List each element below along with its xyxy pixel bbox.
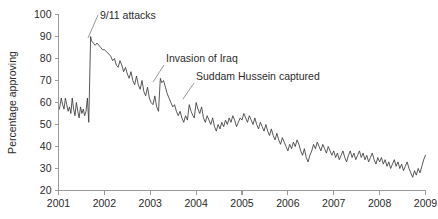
y-tick-label: 90 bbox=[40, 30, 52, 42]
y-axis-title: Percentage approving bbox=[6, 51, 18, 154]
x-tick-label: 2004 bbox=[184, 197, 208, 209]
annotation-label-sept-eleven: 9/11 attacks bbox=[100, 9, 156, 21]
x-tick-label: 2002 bbox=[93, 197, 117, 209]
y-axis-title-label: Percentage approving bbox=[6, 51, 18, 154]
x-tick-label: 2001 bbox=[47, 197, 71, 209]
y-tick-label: 70 bbox=[40, 74, 52, 86]
approval-rating-line-chart: 2030405060708090100 20012002200320042005… bbox=[0, 0, 438, 219]
y-tick-label: 50 bbox=[40, 118, 52, 130]
y-tick-label: 80 bbox=[40, 52, 52, 64]
annotation-label-invasion-of-iraq: Invasion of Iraq bbox=[166, 52, 238, 64]
x-tick-label: 2007 bbox=[322, 197, 346, 209]
y-tick-label: 30 bbox=[40, 162, 52, 174]
annotation-label-saddam-captured: Suddam Hussein captured bbox=[196, 70, 320, 82]
y-tick-label: 20 bbox=[40, 184, 52, 196]
x-tick-label: 2005 bbox=[230, 197, 254, 209]
chart-figure: 2030405060708090100 20012002200320042005… bbox=[0, 0, 438, 219]
plot-background bbox=[0, 0, 438, 219]
x-tick-label: 2008 bbox=[368, 197, 392, 209]
x-tick-label: 2009 bbox=[414, 197, 438, 209]
x-tick-label: 2003 bbox=[139, 197, 163, 209]
y-tick-label: 60 bbox=[40, 96, 52, 108]
y-tick-label: 100 bbox=[34, 8, 52, 20]
y-tick-label: 40 bbox=[40, 140, 52, 152]
x-tick-label: 2006 bbox=[276, 197, 300, 209]
